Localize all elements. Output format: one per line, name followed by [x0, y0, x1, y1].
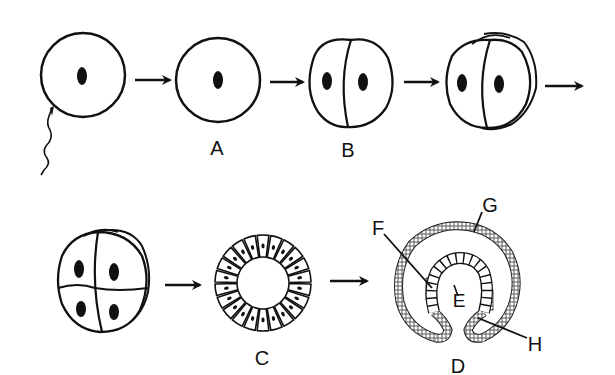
- zygote-cell: [176, 38, 260, 122]
- label-f: F: [372, 218, 384, 238]
- four-cell-stage: [446, 33, 536, 129]
- label-g: G: [482, 195, 498, 215]
- label-d: D: [451, 356, 465, 375]
- gastrula: [399, 226, 517, 339]
- diagram-stage: [0, 0, 615, 375]
- two-cell-stage: [309, 39, 392, 127]
- eight-cell-stage: [58, 230, 149, 332]
- label-h: H: [528, 334, 542, 354]
- label-c: C: [255, 348, 269, 368]
- label-b: B: [341, 140, 354, 160]
- label-e: E: [453, 291, 466, 310]
- blastula: [215, 235, 311, 331]
- egg-with-sperm: [41, 33, 125, 175]
- label-a: A: [210, 138, 223, 158]
